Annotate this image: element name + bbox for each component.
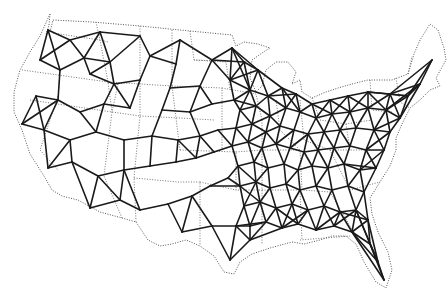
network-edge bbox=[368, 92, 386, 110]
network-edge bbox=[228, 178, 240, 186]
network-edge bbox=[298, 210, 308, 224]
state-boundary bbox=[330, 150, 380, 190]
network-edge bbox=[312, 150, 318, 166]
network-edge bbox=[294, 130, 308, 134]
network-edge bbox=[308, 134, 318, 150]
network-edge bbox=[200, 60, 212, 86]
network-edge bbox=[276, 144, 284, 164]
network-edge bbox=[150, 162, 176, 166]
network-edge bbox=[168, 196, 192, 204]
network-edge bbox=[266, 116, 270, 132]
network-edge bbox=[176, 40, 180, 64]
network-edge bbox=[334, 146, 350, 148]
network-edge bbox=[182, 226, 212, 232]
network-edge bbox=[212, 100, 234, 104]
network-edge bbox=[318, 150, 328, 168]
network-edge bbox=[210, 178, 228, 186]
network-edge bbox=[284, 148, 290, 164]
network-edge bbox=[294, 112, 300, 130]
network-edge bbox=[308, 132, 324, 134]
network-edge bbox=[120, 170, 124, 200]
network-edge bbox=[110, 36, 140, 62]
network-edge bbox=[152, 136, 178, 140]
network-edge bbox=[324, 190, 332, 206]
network-edge bbox=[96, 104, 104, 132]
network-edge bbox=[196, 152, 214, 158]
network-edge bbox=[36, 96, 58, 100]
network-edge bbox=[270, 184, 286, 188]
network-edge bbox=[298, 152, 304, 170]
network-edge bbox=[256, 182, 270, 188]
network-edge bbox=[70, 140, 72, 162]
network-edge bbox=[266, 208, 276, 222]
network-edge bbox=[232, 48, 250, 90]
state-boundary bbox=[236, 150, 300, 152]
state-boundary bbox=[140, 116, 214, 120]
network-edge bbox=[176, 158, 196, 162]
network-edge bbox=[316, 168, 328, 186]
network-edge bbox=[308, 206, 324, 210]
network-edge bbox=[44, 130, 48, 168]
network-edge bbox=[348, 170, 360, 186]
network-edge bbox=[100, 32, 110, 62]
network-edge bbox=[180, 40, 212, 60]
network-edge bbox=[98, 176, 120, 200]
network-edge bbox=[212, 60, 244, 62]
network-edge bbox=[366, 150, 376, 168]
state-boundary bbox=[134, 178, 200, 246]
network-edge bbox=[170, 64, 176, 88]
network-edge bbox=[104, 104, 130, 108]
network-edge bbox=[170, 86, 200, 88]
network-edge bbox=[124, 166, 150, 170]
network-edge bbox=[334, 130, 340, 148]
network-edge bbox=[236, 110, 240, 128]
network-edge bbox=[312, 166, 328, 168]
network-edge bbox=[96, 132, 124, 140]
network-edge bbox=[300, 112, 316, 118]
network-edge bbox=[364, 168, 376, 192]
network-edge bbox=[350, 112, 356, 128]
network-edge bbox=[150, 136, 152, 166]
network-edge bbox=[254, 162, 256, 182]
state-boundary bbox=[22, 70, 118, 84]
network-edge bbox=[152, 110, 162, 136]
network-edge bbox=[232, 128, 236, 146]
network-edge bbox=[230, 48, 232, 80]
network-edge bbox=[356, 128, 374, 130]
network-edge bbox=[240, 110, 252, 124]
network-edge bbox=[236, 128, 248, 142]
network-edge bbox=[252, 116, 270, 124]
network-edge bbox=[312, 166, 316, 186]
network-edge bbox=[176, 140, 178, 162]
network-edge bbox=[90, 176, 98, 208]
network-edge bbox=[178, 140, 196, 158]
network-edge bbox=[256, 106, 270, 116]
network-edge bbox=[332, 112, 350, 114]
network-edge bbox=[324, 132, 334, 148]
network-edge bbox=[290, 148, 304, 152]
network-edge bbox=[80, 112, 96, 132]
network-edge bbox=[280, 126, 294, 130]
network-edge bbox=[58, 100, 80, 112]
network-edge bbox=[200, 86, 212, 104]
network-edge bbox=[182, 196, 192, 232]
state-boundary bbox=[300, 236, 350, 240]
network-edge bbox=[84, 58, 90, 74]
network-edge bbox=[368, 108, 374, 130]
network-edge bbox=[100, 32, 140, 36]
network-edge bbox=[238, 166, 240, 186]
network-edge bbox=[266, 222, 282, 228]
network-edge bbox=[268, 168, 270, 188]
network-edge bbox=[236, 206, 244, 226]
network-edge bbox=[292, 190, 300, 204]
network-edge bbox=[266, 132, 276, 144]
network-edge bbox=[244, 206, 250, 226]
network-edge bbox=[232, 146, 238, 166]
network-edge bbox=[238, 166, 256, 182]
network-edge bbox=[130, 80, 140, 108]
network-edge bbox=[200, 136, 214, 152]
network-edge bbox=[212, 60, 230, 80]
network-edge bbox=[356, 192, 364, 210]
network-edge bbox=[284, 164, 298, 170]
network-edge bbox=[328, 168, 332, 190]
